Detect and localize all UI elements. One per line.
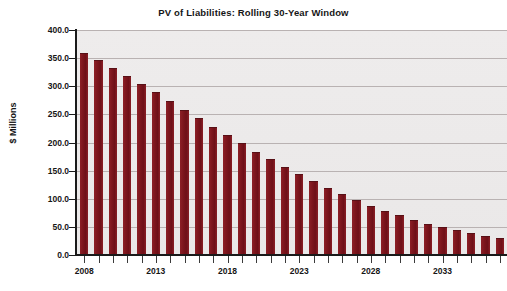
x-tick-mark [371,256,372,263]
x-tick-mark [314,256,315,263]
y-tick-label: 150.0 [27,166,69,176]
y-tick-mark [69,30,75,31]
x-tick-mark [486,256,487,263]
x-tick-label: 2008 [75,266,94,276]
chart-title: PV of Liabilities: Rolling 30-Year Windo… [0,7,507,18]
y-tick-mark [69,199,75,200]
bar[interactable] [395,215,403,255]
y-tick-label: 300.0 [27,81,69,91]
x-tick-mark [142,256,143,263]
bar[interactable] [80,53,88,255]
plot-area [77,30,507,255]
x-axis-tick-labels: 200820132018202320282033 [0,266,507,284]
y-tick-label: 400.0 [27,25,69,35]
x-tick-label: 2023 [290,266,309,276]
bar[interactable] [109,68,117,255]
y-tick-label: 200.0 [27,138,69,148]
x-tick-mark [342,256,343,263]
x-tick-mark [256,256,257,263]
y-axis-ticks: 0.050.0100.0150.0200.0250.0300.0350.0400… [0,0,69,291]
x-tick-mark [170,256,171,263]
x-tick-mark [242,256,243,263]
x-tick-mark [99,256,100,263]
x-tick-mark [113,256,114,263]
x-tick-mark [285,256,286,263]
x-tick-label: 2013 [146,266,165,276]
bar[interactable] [266,159,274,255]
bar[interactable] [180,110,188,255]
bar[interactable] [238,143,246,255]
x-tick-mark [443,256,444,263]
bar[interactable] [123,76,131,255]
bar[interactable] [152,92,160,255]
bar[interactable] [496,238,504,255]
x-tick-mark [127,256,128,263]
y-tick-mark [69,86,75,87]
y-tick-label: 350.0 [27,53,69,63]
x-tick-mark [213,256,214,263]
x-tick-mark [471,256,472,263]
y-tick-label: 50.0 [27,222,69,232]
x-tick-mark [228,256,229,263]
x-tick-mark [385,256,386,263]
y-tick-label: 250.0 [27,109,69,119]
bar[interactable] [166,101,174,255]
y-tick-mark [69,143,75,144]
bar[interactable] [94,60,102,255]
bar[interactable] [352,200,360,255]
x-tick-mark [414,256,415,263]
y-tick-mark [69,171,75,172]
bar[interactable] [424,224,432,255]
x-tick-label: 2033 [433,266,452,276]
bar[interactable] [381,211,389,255]
bar[interactable] [223,135,231,255]
y-tick-mark [69,227,75,228]
chart-figure: PV of Liabilities: Rolling 30-Year Windo… [0,0,507,291]
x-tick-mark [271,256,272,263]
x-tick-mark [328,256,329,263]
bar-series [77,30,507,255]
bar[interactable] [309,181,317,255]
x-tick-mark [299,256,300,263]
y-axis-line [75,29,77,256]
x-tick-mark [185,256,186,263]
bar[interactable] [281,167,289,255]
x-tick-label: 2018 [218,266,237,276]
x-tick-mark [84,256,85,263]
x-tick-label: 2028 [361,266,380,276]
bar[interactable] [438,227,446,255]
bar[interactable] [338,194,346,255]
bar[interactable] [410,220,418,255]
bar[interactable] [252,152,260,256]
x-tick-mark [199,256,200,263]
y-tick-mark [69,114,75,115]
bar[interactable] [481,236,489,255]
bar[interactable] [137,84,145,255]
x-tick-mark [500,256,501,263]
x-axis-ticks [0,256,507,266]
x-tick-mark [428,256,429,263]
bar[interactable] [453,230,461,255]
x-tick-mark [357,256,358,263]
x-tick-mark [400,256,401,263]
y-tick-label: 100.0 [27,194,69,204]
x-tick-mark [457,256,458,263]
bar[interactable] [295,174,303,255]
bar[interactable] [209,127,217,255]
bar[interactable] [467,233,475,255]
bar[interactable] [367,206,375,256]
y-tick-mark [69,58,75,59]
x-tick-mark [156,256,157,263]
bar[interactable] [195,118,203,255]
bar[interactable] [324,188,332,255]
